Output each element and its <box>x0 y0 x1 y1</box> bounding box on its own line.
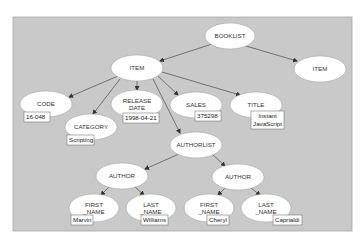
value-box-last_name_left: Williams <box>141 215 168 225</box>
value-box-title: InstantJavaScript <box>251 111 284 129</box>
node-label: SALES <box>186 101 206 108</box>
node-label: RELEASE <box>123 97 152 104</box>
node-label: ITEM <box>130 64 145 71</box>
node-author_right: AUTHOR <box>212 164 264 190</box>
value-box-sales: 375298 <box>195 111 221 121</box>
value-text: Instant <box>258 112 277 119</box>
value-box-category: Scripting <box>67 135 94 145</box>
value-box-release_date: 1998-04-21 <box>123 113 159 123</box>
value-box-code: 16-048 <box>24 112 50 122</box>
node-label: LAST <box>143 201 159 208</box>
value-box-first_name_left: Marvin <box>71 215 93 225</box>
node-label: TITLE <box>248 101 265 108</box>
node-booklist: BOOKLIST <box>205 23 255 49</box>
value-text: Williams <box>143 216 166 223</box>
node-item_right: ITEM <box>294 56 346 82</box>
value-text: Scripting <box>69 136 94 143</box>
value-text: Marvin <box>73 216 92 223</box>
node-label: LAST <box>258 201 274 208</box>
node-label: _NAME <box>197 208 219 215</box>
node-item: ITEM <box>111 55 163 81</box>
node-label: _NAME <box>139 208 161 215</box>
node-label: AUTHOR <box>109 172 136 179</box>
node-label: FIRST <box>85 201 103 208</box>
value-text: Cheryl <box>209 216 227 223</box>
diagram-background <box>13 17 352 231</box>
value-box-last_name_right: Caprialdi <box>273 215 302 225</box>
diagram-canvas: BOOKLISTITEMITEMCODERELEASEDATESALESTITL… <box>0 0 363 241</box>
value-text: 375298 <box>197 112 218 119</box>
node-authorlist: AUTHORLIST <box>170 132 222 158</box>
value-text: Caprialdi <box>275 216 299 223</box>
node-label: ITEM <box>313 65 328 72</box>
tree-diagram: BOOKLISTITEMITEMCODERELEASEDATESALESTITL… <box>0 0 363 241</box>
node-label: DATE <box>129 104 145 111</box>
value-text: 1998-04-21 <box>125 114 157 121</box>
node-label: FIRST <box>200 201 218 208</box>
value-box-first_name_right: Cheryl <box>207 215 229 225</box>
value-text: 16-048 <box>26 113 46 120</box>
node-label: _NAME <box>82 208 104 215</box>
node-label: CATEGORY <box>74 123 108 130</box>
value-text: JavaScript <box>253 120 282 127</box>
node-label: _NAME <box>254 208 276 215</box>
node-label: BOOKLIST <box>215 32 246 39</box>
node-label: AUTHORLIST <box>176 141 215 148</box>
node-author_left: AUTHOR <box>96 163 148 189</box>
node-label: AUTHOR <box>225 173 252 180</box>
node-label: CODE <box>37 100 55 107</box>
